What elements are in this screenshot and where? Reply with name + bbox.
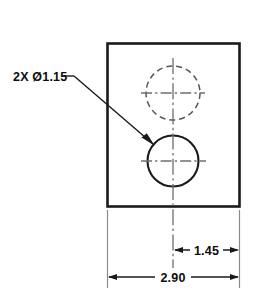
dimension-arrow-2-90-left — [108, 274, 117, 280]
hole-callout-note: 2X Ø1.15 — [13, 70, 67, 84]
dimension-arrow-1-45-right — [230, 247, 239, 253]
dimension-arrow-2-90-right — [230, 274, 239, 280]
engineering-drawing-svg: 1.45 2.90 2X Ø1.15 — [0, 0, 255, 300]
technical-drawing-canvas: 1.45 2.90 2X Ø1.15 — [0, 0, 255, 300]
leader-line — [74, 76, 153, 144]
dimension-value-2-90: 2.90 — [160, 271, 185, 285]
dimension-arrow-1-45-left — [174, 247, 183, 253]
dimension-value-1-45: 1.45 — [194, 244, 219, 258]
